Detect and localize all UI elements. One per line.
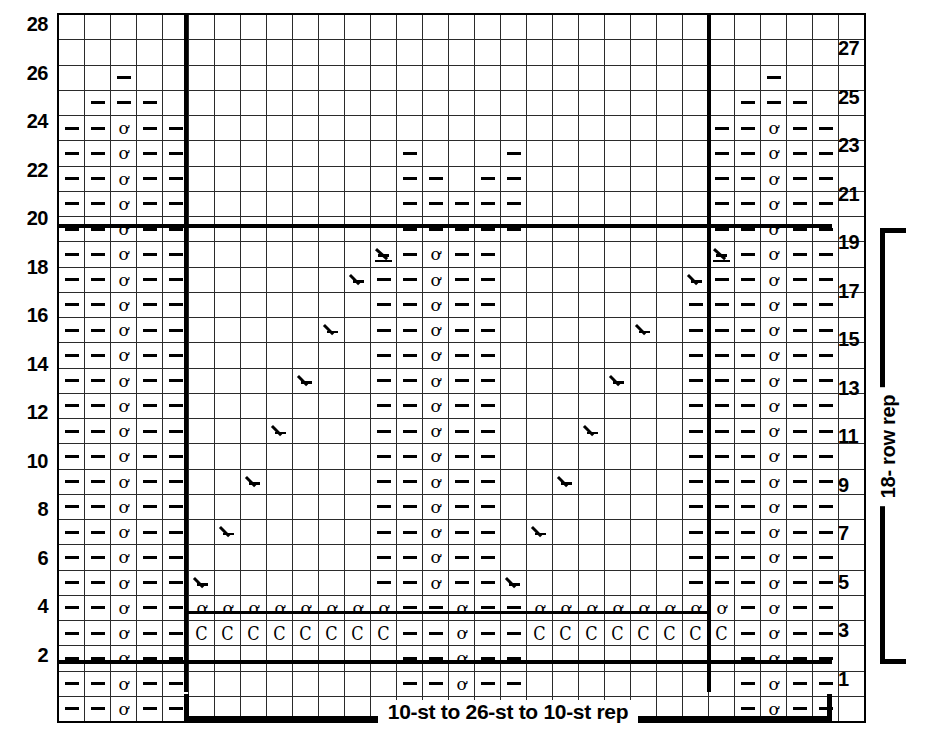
chart-cell-dash[interactable] [137,116,163,141]
chart-cell-q[interactable] [709,595,735,620]
chart-cell-dash[interactable] [449,570,475,595]
chart-cell-white[interactable] [319,368,345,393]
chart-cell-dash[interactable] [85,393,111,418]
chart-cell-gray[interactable] [605,166,631,191]
chart-cell-c[interactable] [241,621,267,646]
chart-cell-dash[interactable] [397,520,423,545]
chart-cell-dash[interactable] [735,646,761,671]
chart-cell-dash[interactable] [58,343,85,368]
chart-cell-c[interactable] [293,621,319,646]
chart-cell-dash[interactable] [85,520,111,545]
chart-cell-gray[interactable] [657,65,683,90]
chart-cell-white[interactable] [345,469,371,494]
chart-cell-gray[interactable] [241,217,267,242]
chart-cell-q[interactable] [761,318,787,343]
chart-cell-dash[interactable] [787,343,813,368]
chart-cell-gray[interactable] [709,646,735,671]
chart-cell-dash[interactable] [709,469,735,494]
chart-cell-q[interactable] [215,595,241,620]
chart-cell-gray[interactable] [241,166,267,191]
chart-cell-dash[interactable] [397,444,423,469]
chart-cell-dash[interactable] [735,494,761,519]
chart-cell-white[interactable] [293,570,319,595]
chart-cell-gray[interactable] [553,393,579,418]
chart-cell-gray[interactable] [501,393,527,418]
chart-cell-gray[interactable] [657,166,683,191]
chart-cell-gray[interactable] [293,671,319,696]
chart-cell-dec[interactable] [241,469,267,494]
chart-cell-dash[interactable] [787,621,813,646]
chart-cell-gray[interactable] [657,141,683,166]
chart-cell-dash[interactable] [449,191,475,216]
chart-cell-gray[interactable] [527,217,553,242]
chart-cell-white[interactable] [423,40,449,65]
chart-cell-q[interactable] [449,621,475,646]
chart-cell-dash[interactable] [397,393,423,418]
chart-cell-dash[interactable] [58,621,85,646]
chart-cell-q[interactable] [423,267,449,292]
chart-cell-white[interactable] [657,469,683,494]
chart-cell-white[interactable] [605,469,631,494]
chart-cell-gray[interactable] [267,292,293,317]
chart-cell-dash[interactable] [683,520,709,545]
chart-cell-dash[interactable] [58,570,85,595]
chart-cell-gray[interactable] [631,116,657,141]
chart-cell-dash[interactable] [85,570,111,595]
chart-cell-white[interactable] [319,343,345,368]
chart-cell-dash[interactable] [397,671,423,696]
chart-cell-dec[interactable] [683,267,709,292]
chart-cell-white[interactable] [631,393,657,418]
chart-cell-gray[interactable] [527,368,553,393]
chart-cell-gray[interactable] [189,166,215,191]
chart-cell-gray[interactable] [241,116,267,141]
chart-cell-q[interactable] [111,141,137,166]
chart-cell-white[interactable] [709,14,735,40]
chart-cell-dash[interactable] [397,419,423,444]
chart-cell-q[interactable] [111,191,137,216]
chart-cell-gray[interactable] [267,14,293,40]
chart-cell-gray[interactable] [215,116,241,141]
chart-cell-dash[interactable] [787,292,813,317]
chart-cell-dash[interactable] [787,646,813,671]
chart-cell-dash[interactable] [58,671,85,696]
chart-cell-gray[interactable] [215,494,241,519]
chart-cell-gray[interactable] [241,444,267,469]
chart-cell-dash[interactable] [475,368,501,393]
chart-cell-dash[interactable] [709,520,735,545]
chart-cell-dash[interactable] [787,393,813,418]
chart-cell-dash[interactable] [787,166,813,191]
chart-cell-gray[interactable] [579,292,605,317]
chart-cell-q[interactable] [761,646,787,671]
chart-cell-dash[interactable] [475,570,501,595]
chart-cell-gray[interactable] [527,166,553,191]
chart-cell-gray[interactable] [215,368,241,393]
chart-cell-q[interactable] [111,595,137,620]
chart-cell-dash[interactable] [371,318,397,343]
chart-cell-white[interactable] [345,444,371,469]
chart-cell-dash[interactable] [813,267,839,292]
chart-cell-dash[interactable] [449,343,475,368]
chart-cell-c[interactable] [215,621,241,646]
chart-cell-gray[interactable] [631,65,657,90]
chart-cell-dash[interactable] [449,393,475,418]
chart-cell-dash[interactable] [735,217,761,242]
chart-cell-dash[interactable] [397,191,423,216]
chart-cell-gray[interactable] [579,368,605,393]
chart-cell-dash[interactable] [787,469,813,494]
chart-cell-dash[interactable] [85,419,111,444]
chart-cell-dash[interactable] [813,444,839,469]
chart-cell-dash[interactable] [449,469,475,494]
chart-cell-gray[interactable] [345,65,371,90]
chart-cell-dash[interactable] [735,166,761,191]
chart-cell-gray[interactable] [553,116,579,141]
chart-cell-gray[interactable] [631,90,657,115]
chart-cell-dash[interactable] [813,621,839,646]
chart-cell-dash[interactable] [761,90,787,115]
chart-cell-dash[interactable] [683,570,709,595]
chart-cell-gray[interactable] [189,646,215,671]
chart-cell-dash[interactable] [475,595,501,620]
chart-cell-q[interactable] [761,545,787,570]
chart-cell-dash[interactable] [58,520,85,545]
chart-cell-dash[interactable] [475,444,501,469]
chart-cell-dash[interactable] [475,671,501,696]
